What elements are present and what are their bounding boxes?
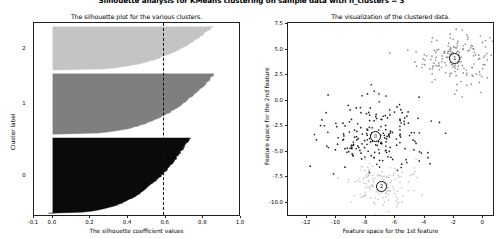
scatter-y-tick-label: 7.5 bbox=[265, 20, 283, 26]
silhouette-x-tick-mark bbox=[52, 216, 53, 218]
silhouette-x-tick-mark bbox=[240, 216, 241, 218]
scatter-x-tick-label: -12 bbox=[302, 219, 311, 225]
scatter-points bbox=[288, 23, 494, 216]
silhouette-band-cluster-2 bbox=[34, 23, 240, 216]
silhouette-x-tick-mark bbox=[127, 216, 128, 218]
scatter-x-tick-label: -8 bbox=[362, 219, 367, 225]
cluster-label-1: 1 bbox=[22, 100, 25, 106]
scatter-axes: 102 bbox=[287, 22, 494, 216]
scatter-y-tick-label: -7.5 bbox=[265, 173, 283, 179]
scatter-x-tick-label: -2 bbox=[450, 219, 455, 225]
scatter-y-axis-label: Feature space for the 2nd feature bbox=[264, 67, 270, 165]
scatter-y-tick-mark bbox=[285, 151, 287, 152]
scatter-x-tick-mark bbox=[335, 216, 336, 218]
cluster-center-0: 0 bbox=[370, 131, 381, 142]
silhouette-x-tick-mark bbox=[165, 216, 166, 218]
scatter-x-tick-mark bbox=[424, 216, 425, 218]
scatter-y-tick-label: 5.0 bbox=[265, 46, 283, 52]
scatter-y-tick-mark bbox=[285, 176, 287, 177]
cluster-label-0: 0 bbox=[22, 172, 25, 178]
average-silhouette-line bbox=[163, 23, 164, 215]
silhouette-axes bbox=[33, 22, 240, 216]
silhouette-x-tick-mark bbox=[89, 216, 90, 218]
scatter-x-tick-label: -6 bbox=[391, 219, 396, 225]
silhouette-plot-title: The silhouette plot for the various clus… bbox=[33, 13, 240, 20]
scatter-y-tick-mark bbox=[285, 74, 287, 75]
matplotlib-figure: Silhouette analysis for KMeans clusterin… bbox=[0, 0, 503, 239]
scatter-y-tick-mark bbox=[285, 23, 287, 24]
scatter-y-tick-mark bbox=[285, 125, 287, 126]
silhouette-x-tick-label: 1.0 bbox=[236, 219, 245, 225]
silhouette-y-axis-label: Cluster label bbox=[10, 114, 16, 150]
scatter-x-tick-mark bbox=[306, 216, 307, 218]
scatter-x-axis-label: Feature space for the 1st feature bbox=[287, 228, 494, 234]
scatter-x-tick-mark bbox=[365, 216, 366, 218]
silhouette-x-tick-label: 0.8 bbox=[198, 219, 207, 225]
scatter-x-tick-mark bbox=[394, 216, 395, 218]
silhouette-x-tick-label: -0.1 bbox=[28, 219, 39, 225]
scatter-x-tick-label: -4 bbox=[421, 219, 426, 225]
cluster-label-2: 2 bbox=[22, 45, 25, 51]
figure-suptitle: Silhouette analysis for KMeans clusterin… bbox=[0, 0, 503, 5]
silhouette-x-tick-mark bbox=[202, 216, 203, 218]
silhouette-x-tick-label: 0.0 bbox=[48, 219, 57, 225]
scatter-y-tick-label: -10.0 bbox=[265, 199, 283, 205]
silhouette-x-tick-label: 0.4 bbox=[123, 219, 132, 225]
silhouette-x-tick-label: 0.2 bbox=[85, 219, 94, 225]
scatter-x-tick-mark bbox=[453, 216, 454, 218]
scatter-y-tick-mark bbox=[285, 49, 287, 50]
cluster-center-2: 2 bbox=[376, 181, 387, 192]
scatter-x-tick-label: -10 bbox=[331, 219, 340, 225]
silhouette-x-tick-mark bbox=[33, 216, 34, 218]
scatter-x-tick-label: 0 bbox=[481, 219, 484, 225]
scatter-y-tick-mark bbox=[285, 100, 287, 101]
silhouette-x-tick-label: 0.6 bbox=[160, 219, 169, 225]
scatter-y-tick-mark bbox=[285, 202, 287, 203]
scatter-plot-title: The visualization of the clustered data. bbox=[287, 13, 494, 20]
silhouette-x-axis-label: The silhouette coefficient values bbox=[33, 228, 240, 234]
scatter-x-tick-mark bbox=[482, 216, 483, 218]
